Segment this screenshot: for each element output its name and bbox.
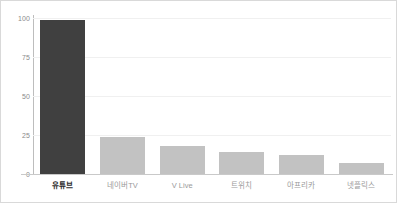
y-tick-label-75: 75 [4,54,30,61]
bar-넷플릭스[interactable] [339,163,384,174]
bar-네이버TV[interactable] [100,137,145,174]
x-axis-line [21,174,393,175]
bar-chart-figure: 0255075100 유튜브네이버TVV Live트위치아프리카넷플릭스 [0,0,397,203]
x-tick-label-네이버TV: 네이버TV [93,181,153,190]
x-tick-label-V Live: V Live [152,181,212,190]
x-tick-label-트위치: 트위치 [212,181,272,190]
bar-series [33,18,391,174]
y-tick-label-50: 50 [4,93,30,100]
bar-아프리카[interactable] [279,155,324,174]
x-tick-label-넷플릭스: 넷플릭스 [331,181,391,190]
x-tick-label-유튜브: 유튜브 [33,181,93,190]
y-tick-label-25: 25 [4,132,30,139]
y-tick-label-100: 100 [4,15,30,22]
bar-V Live[interactable] [160,146,205,174]
x-axis-tick-labels: 유튜브네이버TVV Live트위치아프리카넷플릭스 [33,181,391,197]
bar-트위치[interactable] [219,152,264,174]
x-tick-label-아프리카: 아프리카 [272,181,332,190]
bar-유튜브[interactable] [40,20,85,174]
y-axis-tick-labels: 0255075100 [1,18,30,174]
